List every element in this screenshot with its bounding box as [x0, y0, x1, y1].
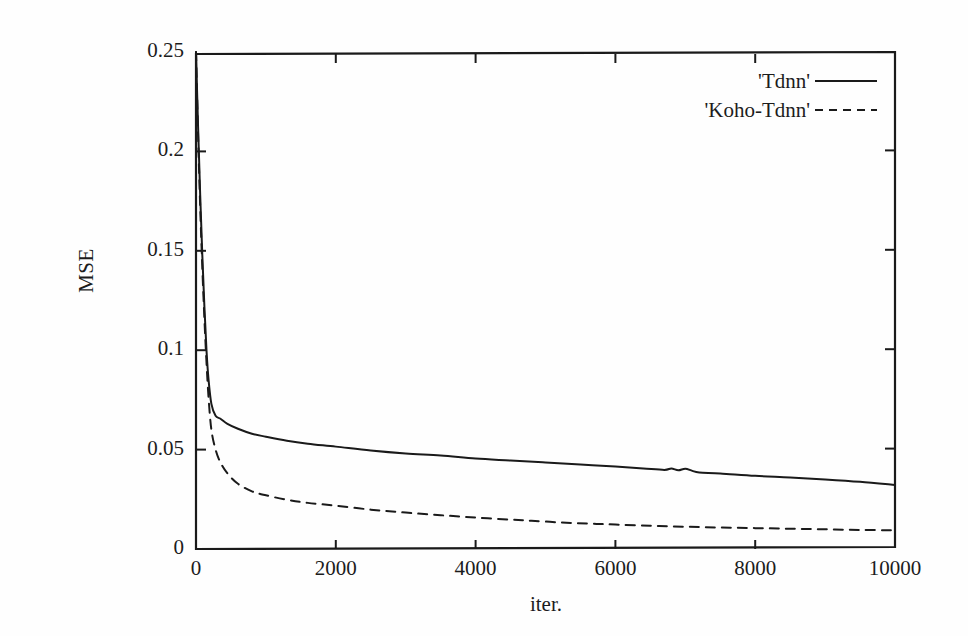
y-tick-label: 0.2 — [104, 137, 184, 162]
y-tick-label: 0.15 — [104, 237, 184, 262]
y-tick-label: 0.1 — [104, 336, 184, 361]
x-tick-label: 4000 — [416, 556, 536, 581]
x-tick-label: 10000 — [835, 556, 955, 581]
data-series — [196, 52, 895, 530]
legend-label: 'Tdnn' — [758, 69, 822, 94]
series-line-2 — [196, 52, 895, 530]
y-tick-label: 0.05 — [104, 436, 184, 461]
legend-label: 'Koho-Tdnn' — [704, 98, 822, 123]
y-tick-label: 0.25 — [104, 38, 184, 63]
x-tick-label: 0 — [136, 556, 256, 581]
legend-line-sample — [822, 74, 886, 88]
y-axis-title: MSE — [74, 211, 99, 331]
axis-ticks — [196, 54, 895, 549]
x-tick-label: 8000 — [695, 556, 815, 581]
plot-frame — [196, 52, 895, 549]
x-tick-label: 2000 — [276, 556, 396, 581]
legend-line-sample — [822, 103, 886, 117]
legend-entry: 'Tdnn' — [758, 68, 886, 94]
x-axis-title: iter. — [196, 592, 896, 617]
x-tick-label: 6000 — [555, 556, 675, 581]
legend-entry: 'Koho-Tdnn' — [704, 97, 886, 123]
frame-rect — [196, 52, 895, 549]
chart-figure: MSE iter. 00.050.10.150.20.25 0200040006… — [0, 0, 968, 636]
